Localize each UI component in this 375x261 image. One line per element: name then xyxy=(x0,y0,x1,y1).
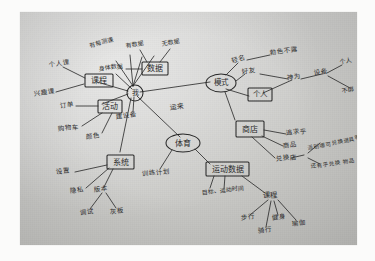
leaf-shangpin: 商品 xyxy=(283,140,298,150)
node-geren: 个人 xyxy=(253,90,268,99)
leaf-duihuandian: 兑换店 xyxy=(276,152,298,163)
node-shuju: 数据 xyxy=(147,63,163,73)
leaf-bubang: 不绑 xyxy=(341,85,354,95)
leaf-shebei: 设备 xyxy=(313,66,328,76)
leaf-note2: 还有乎兑换 物品 xyxy=(310,156,354,170)
leaf-note1: 派别哪可兑换道具等 xyxy=(307,133,357,152)
node-xitong: 系统 xyxy=(113,157,129,167)
node-shangdian: 商店 xyxy=(242,124,258,134)
leaf-haoshi: 好友 xyxy=(241,65,256,76)
node-huodong: 活动 xyxy=(102,101,118,111)
node-kecheng: 课程 xyxy=(91,76,107,85)
node-tiyu: 体育 xyxy=(175,138,191,148)
node-center: 我 xyxy=(132,88,139,97)
leaf-yinsi: 隐私 xyxy=(70,185,85,195)
leaf-wushuju: 无数据 xyxy=(161,37,180,48)
leaf-shentishuju: 身体数据 xyxy=(99,62,124,72)
leaf-youshuju: 有数据 xyxy=(125,39,144,50)
leaf-yanse: 颜色 xyxy=(86,131,101,141)
leaf-tiaoshi: 调试 xyxy=(80,207,95,217)
leaf-jianshenfang: 建设备 xyxy=(115,110,137,121)
leaf-yujia: 瑜伽 xyxy=(292,218,307,228)
leaf-shezhi: 设置 xyxy=(56,166,71,176)
node-yundongshuju: 运动数据 xyxy=(212,164,244,174)
leaf-xunlianjihua: 训练计划 xyxy=(142,167,171,178)
leaf-jianshen: 健身 xyxy=(272,212,287,222)
leaf-mubiao: 目标、运动时间 xyxy=(202,184,245,196)
branch-moshi xyxy=(206,55,350,120)
leaf-shenwei: 神为 xyxy=(286,71,301,81)
leaf-gerenke: 个人课 xyxy=(48,57,70,68)
node-moshi: 模式 xyxy=(214,77,229,87)
mindmap-drawing: 我 课程 数据 活动 系统 模式 个人 商店 体育 运动数据 个人课 兴趣课 有… xyxy=(20,12,357,245)
leaf-qixing: 骑行 xyxy=(258,225,273,235)
leaf-kecheng2: 课程 xyxy=(263,190,279,200)
paper-sheet: 我 课程 数据 活动 系统 模式 个人 商店 体育 运动数据 个人课 兴趣课 有… xyxy=(20,12,357,245)
leaf-meiyoucedian: 有每测课 xyxy=(89,35,114,49)
edge-label-center-moshi: 运来 xyxy=(170,102,185,111)
leaf-xingquke: 兴趣课 xyxy=(33,87,55,98)
leaf-gouwuche: 购物车 xyxy=(58,122,80,133)
leaf-dingdan: 订单 xyxy=(60,100,75,110)
leaf-qinming: 轻名 xyxy=(231,53,247,65)
leaf-huiban: 灰板 xyxy=(110,206,125,216)
photo-canvas: 我 课程 数据 活动 系统 模式 个人 商店 体育 运动数据 个人课 兴趣课 有… xyxy=(0,0,375,261)
leaf-buxing: 步行 xyxy=(241,212,256,222)
leaf-geren-device: 个人 xyxy=(339,56,352,65)
leaf-quanbuzhezhao: 勃色不露 xyxy=(269,44,298,56)
leaf-banben: 版本 xyxy=(93,183,108,193)
leaf-zhuiqiuping: 追求乎 xyxy=(286,126,308,137)
